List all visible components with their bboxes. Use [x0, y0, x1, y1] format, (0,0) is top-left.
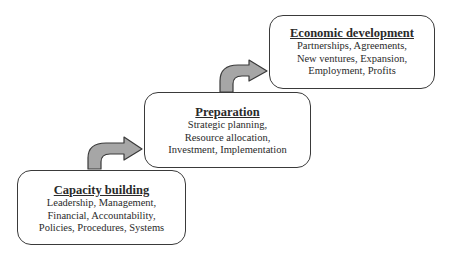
step-detail: Resource allocation,	[145, 132, 310, 145]
step-title: Capacity building	[18, 183, 185, 197]
step-title: Preparation	[145, 105, 310, 119]
step-title: Economic development	[270, 26, 434, 40]
step-detail: Partnerships, Agreements,	[270, 40, 434, 53]
step-economic-development: Economic development Partnerships, Agree…	[269, 15, 435, 89]
step-detail: Financial, Accountability,	[18, 210, 185, 223]
step-detail: Employment, Profits	[270, 65, 434, 78]
step-detail: Leadership, Management,	[18, 197, 185, 210]
step-detail: Policies, Procedures, Systems	[18, 222, 185, 235]
step-detail: Strategic planning,	[145, 119, 310, 132]
step-detail: New ventures, Expansion,	[270, 53, 434, 66]
step-capacity-building: Capacity building Leadership, Management…	[17, 170, 186, 245]
step-preparation: Preparation Strategic planning, Resource…	[144, 92, 311, 168]
step-detail: Investment, Implementation	[145, 144, 310, 157]
